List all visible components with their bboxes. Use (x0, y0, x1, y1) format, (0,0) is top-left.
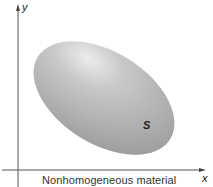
region-s-ellipse (13, 18, 194, 179)
y-axis-arrow-icon (16, 4, 20, 11)
figure-caption: Nonhomogeneous material (42, 175, 176, 186)
diagram-canvas (0, 0, 213, 187)
y-axis-label: y (22, 2, 28, 13)
region-s-label: S (143, 120, 150, 131)
x-axis-label: x (202, 173, 208, 184)
y-axis (16, 4, 20, 187)
x-axis (2, 168, 206, 172)
nonhomogeneous-material-figure: y x S Nonhomogeneous material (0, 0, 213, 187)
